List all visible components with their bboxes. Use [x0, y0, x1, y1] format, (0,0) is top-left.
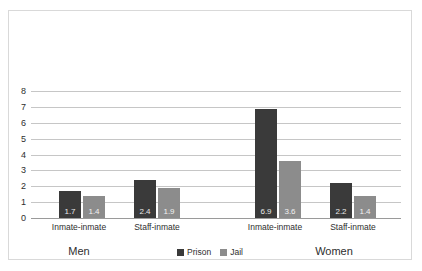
bar-value-women-inmate-prison: 6.9	[255, 208, 277, 216]
y-tick-1: 1	[21, 198, 26, 207]
bar-value-women-staff-prison: 2.2	[330, 208, 352, 216]
bar-women-staff-jail[interactable]: 1.4	[354, 196, 376, 218]
bar-women-staff-prison[interactable]: 2.2	[330, 183, 352, 218]
gridline-8	[31, 91, 401, 92]
bar-women-inmate-prison[interactable]: 6.9	[255, 109, 277, 219]
legend-item-jail[interactable]: Jail	[220, 248, 243, 257]
y-tick-6: 6	[21, 118, 26, 127]
gridline-6	[31, 123, 401, 124]
bar-men-staff-prison[interactable]: 2.4	[134, 180, 156, 218]
y-tick-3: 3	[21, 166, 26, 175]
legend-swatch-jail-icon	[220, 249, 227, 256]
gridline-4	[31, 155, 401, 156]
y-tick-4: 4	[21, 150, 26, 159]
y-tick-7: 7	[21, 102, 26, 111]
legend-label-jail: Jail	[230, 248, 243, 257]
group-label-men: Men	[47, 245, 111, 257]
bar-value-women-inmate-jail: 3.6	[279, 208, 301, 216]
bar-men-inmate-jail[interactable]: 1.4	[83, 196, 105, 218]
bar-value-men-staff-prison: 2.4	[134, 208, 156, 216]
y-tick-0: 0	[21, 214, 26, 223]
bar-value-women-staff-jail: 1.4	[354, 208, 376, 216]
bar-value-men-staff-jail: 1.9	[158, 208, 180, 216]
gridline-7	[31, 107, 401, 108]
y-tick-2: 2	[21, 182, 26, 191]
legend-swatch-prison-icon	[177, 249, 184, 256]
bar-value-men-inmate-jail: 1.4	[83, 208, 105, 216]
bar-men-staff-jail[interactable]: 1.9	[158, 188, 180, 218]
x-label-women-staff-inmate: Staff-inmate	[305, 222, 401, 232]
gridline-3	[31, 170, 401, 171]
y-tick-5: 5	[21, 134, 26, 143]
bar-women-inmate-jail[interactable]: 3.6	[279, 161, 301, 218]
bar-value-men-inmate-prison: 1.7	[59, 208, 81, 216]
gridline-5	[31, 139, 401, 140]
group-label-women: Women	[297, 245, 371, 257]
x-label-men-staff-inmate: Staff-inmate	[109, 222, 205, 232]
legend-label-prison: Prison	[187, 248, 211, 257]
y-tick-8: 8	[21, 87, 26, 96]
x-axis-line	[31, 218, 401, 219]
bar-men-inmate-prison[interactable]: 1.7	[59, 191, 81, 218]
chart-container: 8 7 6 5 4 3 2 1 0 1.7 1.4 2.4 1.9 6.9 3.…	[8, 10, 412, 260]
legend-item-prison[interactable]: Prison	[177, 248, 211, 257]
plot-area: 8 7 6 5 4 3 2 1 0 1.7 1.4 2.4 1.9 6.9 3.…	[31, 91, 401, 218]
